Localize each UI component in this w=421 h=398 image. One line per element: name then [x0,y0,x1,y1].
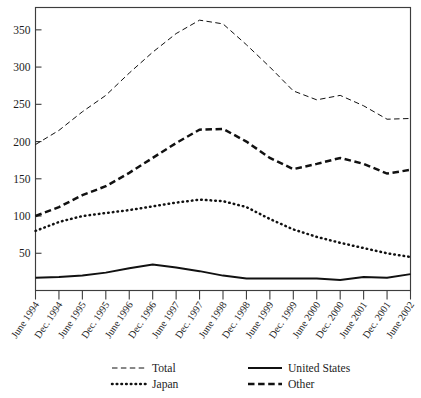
y-axis-label: 50 [19,247,31,259]
y-axis-label: 250 [13,98,31,110]
legend-item-united-states: United States [248,362,351,375]
legend-item-japan: Japan [112,378,179,391]
legend-label: Other [288,378,315,391]
series-line-japan [36,200,411,257]
legend-item-other: Other [248,378,315,391]
legend-label: United States [288,362,351,375]
line-chart: 50100150200250300350June 1994Dec. 1994Ju… [0,0,421,398]
series-line-united-states [36,264,411,280]
plot-frame [36,8,411,291]
legend-label: Total [152,362,176,375]
y-axis-label: 100 [13,210,31,222]
chart-canvas: 50100150200250300350June 1994Dec. 1994Ju… [0,0,421,398]
y-axis-label: 300 [13,61,31,73]
legend-label: Japan [152,378,179,391]
y-axis-label: 150 [13,173,31,185]
legend-item-total: Total [112,362,176,375]
series-line-total [36,20,411,144]
series-line-other [36,129,411,216]
y-axis-label: 350 [13,24,31,36]
y-axis-label: 200 [13,136,31,148]
